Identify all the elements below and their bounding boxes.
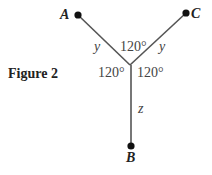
point-label-a: A [59,7,69,22]
angle-label-left: 120° [98,65,125,80]
length-label-c: y [157,39,166,54]
point-label-b: B [125,150,135,165]
point-label-c: C [191,6,201,21]
figure-caption: Figure 2 [8,66,58,81]
angle-label-right: 120° [137,65,164,80]
angle-label-top: 120° [120,39,147,54]
length-label-a: y [92,39,101,54]
point-b [127,142,134,149]
point-c [182,9,189,16]
steiner-diagram: A C B y y z 120° 120° 120° Figure 2 [0,0,212,175]
point-a [74,11,81,18]
length-label-b: z [137,101,144,116]
